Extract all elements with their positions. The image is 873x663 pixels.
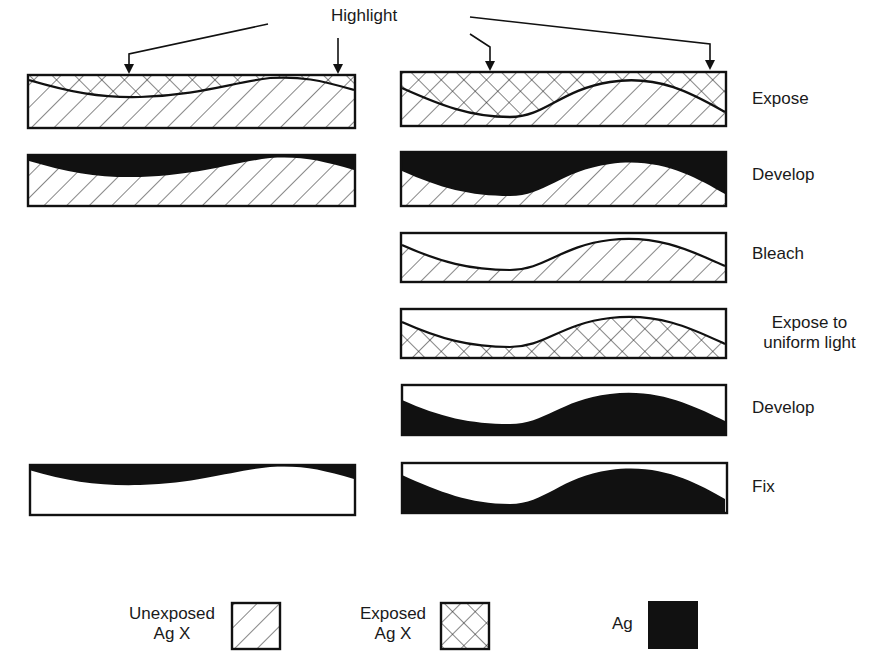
highlight-arrows bbox=[129, 17, 710, 70]
highlight-label: Highlight bbox=[331, 6, 397, 26]
step-label-develop-2: Develop bbox=[752, 398, 814, 418]
right-develop2-panel bbox=[402, 386, 725, 434]
right-uniform-expose-panel bbox=[402, 310, 725, 357]
legend-exposed-line1: Exposed bbox=[350, 604, 436, 624]
step-label-uniform-light: Expose to uniform light bbox=[752, 313, 867, 353]
legend-unexposed-line1: Unexposed bbox=[118, 604, 226, 624]
step-label-develop: Develop bbox=[752, 165, 814, 185]
left-develop-panel bbox=[29, 156, 354, 206]
left-fix-panel bbox=[29, 465, 354, 515]
diagram-canvas bbox=[0, 0, 873, 663]
step-label-expose: Expose bbox=[752, 89, 809, 109]
step-label-uniform-line2: uniform light bbox=[752, 333, 867, 353]
right-develop-panel bbox=[402, 153, 725, 205]
right-expose-panel bbox=[402, 73, 725, 125]
step-label-bleach: Bleach bbox=[752, 244, 804, 264]
legend-label-unexposed: Unexposed Ag X bbox=[118, 604, 226, 644]
legend-swatch-unexposed bbox=[232, 603, 280, 649]
legend-swatch-ag bbox=[648, 601, 698, 649]
right-bleach-panel bbox=[402, 234, 725, 281]
legend-label-exposed: Exposed Ag X bbox=[350, 604, 436, 644]
right-fix-panel bbox=[402, 464, 725, 512]
step-label-fix: Fix bbox=[752, 477, 775, 497]
step-label-uniform-line1: Expose to bbox=[752, 313, 867, 333]
legend-swatch-exposed bbox=[441, 603, 489, 649]
legend-label-ag: Ag bbox=[612, 614, 633, 634]
legend-exposed-line2: Ag X bbox=[350, 624, 436, 644]
legend-unexposed-line2: Ag X bbox=[118, 624, 226, 644]
left-expose-panel bbox=[29, 76, 354, 127]
